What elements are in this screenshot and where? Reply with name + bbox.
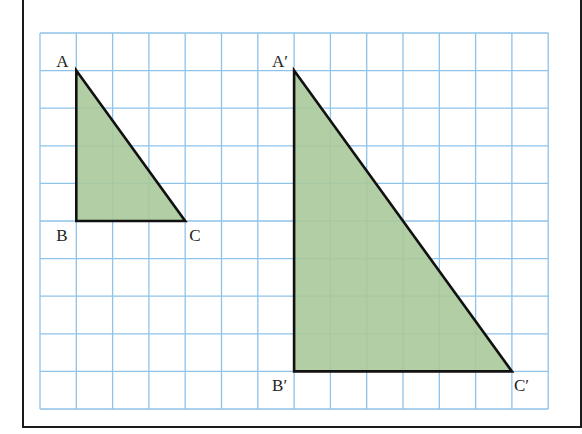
vertex-label: A bbox=[56, 52, 69, 71]
triangles: ABCA′B′C′ bbox=[56, 52, 529, 396]
vertex-label: A′ bbox=[272, 52, 288, 71]
vertex-label: B′ bbox=[272, 376, 287, 395]
vertex-label: B bbox=[56, 226, 67, 245]
vertex-label: C′ bbox=[514, 376, 529, 395]
vertex-label: C bbox=[189, 226, 200, 245]
